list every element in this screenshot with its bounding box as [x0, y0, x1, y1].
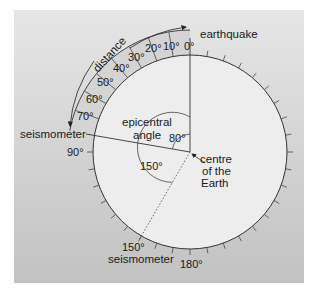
deg-10-label: 10° — [163, 40, 180, 52]
deg-150-outer-label: 150° — [122, 241, 145, 253]
deg-40-label: 40° — [113, 62, 130, 74]
epicentral-label-line1: epicentral — [122, 116, 172, 128]
deg-20-label: 20° — [145, 42, 162, 54]
epicentral-angle-diagram: earthquake distance 0° 10° 20° 30° 40° 5… — [0, 0, 316, 293]
deg-180-label: 180° — [180, 258, 203, 270]
centre-label-line2: of the — [202, 165, 231, 177]
earthquake-label: earthquake — [200, 28, 258, 40]
centre-label-line1: centre — [200, 153, 232, 165]
deg-0-label: 0° — [184, 40, 195, 52]
angle-150-label: 150° — [140, 160, 163, 172]
deg-60-label: 60° — [86, 93, 103, 105]
seismometer-150-label: seismometer — [108, 253, 174, 265]
angle-80-label: 80° — [169, 132, 186, 144]
seismometer-label: seismometer — [20, 128, 86, 140]
deg-70-label: 70° — [77, 110, 94, 122]
epicentral-label-line2: angle — [133, 129, 161, 141]
deg-90-label: 90° — [67, 146, 84, 158]
centre-label-line3: Earth — [201, 177, 229, 189]
deg-50-label: 50° — [97, 76, 114, 88]
deg-30-label: 30° — [128, 51, 145, 63]
